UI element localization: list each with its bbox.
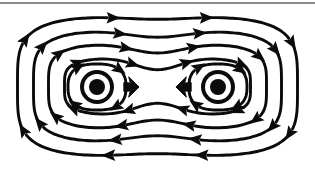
conductors-group — [80, 70, 235, 104]
left-private-loop-arrow-3 — [111, 61, 129, 78]
loop-4-innermost-shared-arrow-1 — [174, 101, 191, 116]
right-conductor-current-out-of-page-icon — [210, 79, 226, 95]
loop-3-arrow-7 — [251, 48, 269, 66]
loop-4-innermost-shared-arrow-6 — [179, 55, 196, 70]
field-line-canvas — [0, 0, 315, 173]
loop-3-arrow-3 — [46, 107, 64, 125]
magnetic-field-figure: Magnetic field lines of two parallel con… — [0, 0, 315, 173]
loop-4-innermost-shared-arrow-2 — [120, 103, 137, 118]
field-loops-group — [14, 12, 300, 161]
loop-4-innermost-shared-arrow-5 — [125, 57, 142, 72]
force-arrows-group — [124, 77, 191, 97]
left-conductor-current-out-of-page-icon — [89, 79, 105, 95]
